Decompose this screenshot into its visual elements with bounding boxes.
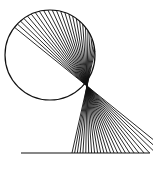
circle-ray-diagram: [0, 0, 153, 170]
